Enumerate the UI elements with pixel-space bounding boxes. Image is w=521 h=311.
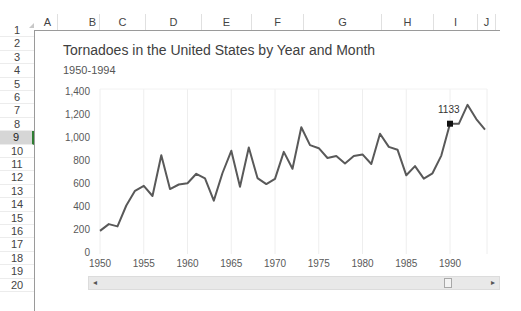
y-tick-label: 1,000 xyxy=(50,132,90,143)
y-tick-label: 600 xyxy=(50,178,90,189)
scroll-left-arrow-icon[interactable]: ◂ xyxy=(89,277,101,289)
highlight-marker[interactable] xyxy=(447,121,453,127)
scroll-right-arrow-icon[interactable]: ▸ xyxy=(487,277,499,289)
x-tick-label: 1975 xyxy=(299,258,339,269)
x-tick-label: 1965 xyxy=(211,258,251,269)
x-tick-label: 1955 xyxy=(124,258,164,269)
x-tick-label: 1990 xyxy=(430,258,470,269)
x-tick-label: 1960 xyxy=(168,258,208,269)
x-tick-label: 1970 xyxy=(255,258,295,269)
y-tick-label: 400 xyxy=(50,201,90,212)
x-tick-label: 1985 xyxy=(386,258,426,269)
series-line-0[interactable] xyxy=(100,105,485,231)
y-tick-label: 1,200 xyxy=(50,109,90,120)
scroll-thumb[interactable] xyxy=(444,278,452,288)
y-tick-label: 800 xyxy=(50,155,90,166)
y-tick-label: 0 xyxy=(50,247,90,258)
y-tick-label: 1,400 xyxy=(50,86,90,97)
y-tick-label: 200 xyxy=(50,224,90,235)
data-label: 1133 xyxy=(438,104,460,115)
chart-horizontal-scrollbar[interactable]: ◂ ▸ xyxy=(88,276,500,290)
x-tick-label: 1950 xyxy=(80,258,120,269)
x-tick-label: 1980 xyxy=(343,258,383,269)
